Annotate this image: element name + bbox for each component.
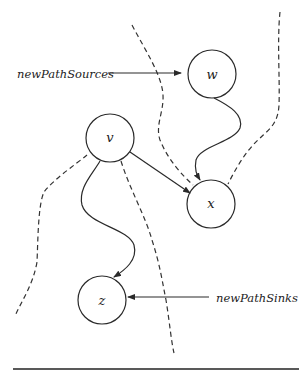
node-w-label: w	[206, 67, 217, 82]
new-path-sources-label: newPathSources	[17, 67, 114, 81]
node-v-label: v	[106, 130, 114, 145]
node-v: v	[86, 114, 134, 162]
dashed-cut-middle-lower	[121, 161, 174, 353]
node-x: x	[187, 180, 235, 228]
dashed-cut-right	[228, 12, 280, 184]
node-x-label: x	[207, 196, 215, 211]
node-w: w	[188, 50, 236, 98]
edge-v-to-x	[130, 152, 190, 193]
node-z-label: z	[98, 293, 106, 308]
new-path-sinks-label: newPathSinks	[216, 291, 298, 305]
edge-w-to-x	[195, 98, 240, 180]
dashed-cut-left	[15, 155, 87, 316]
dashed-cut-middle-upper	[132, 25, 193, 185]
diagram-canvas: w v x z newPathSources newPathSinks	[0, 0, 299, 374]
node-z: z	[78, 276, 126, 324]
